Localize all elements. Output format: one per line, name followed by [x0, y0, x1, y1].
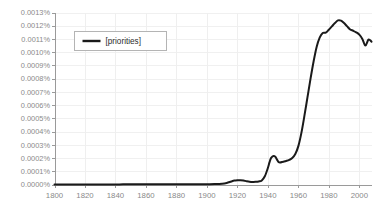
x-axis-tick-label: 1820 — [76, 191, 94, 200]
y-axis-tick-labels: 0.0013%0.0012%0.0011%0.0010%0.0009%0.000… — [21, 8, 51, 189]
x-axis-tick-label: 1840 — [107, 191, 125, 200]
chart-legend[interactable]: [priorities] — [75, 32, 167, 51]
y-axis-tickmarks — [52, 14, 55, 186]
y-axis-tick-label: 0.0010% — [21, 48, 51, 57]
y-axis-tick-label: 0.0006% — [21, 101, 51, 110]
x-axis-tick-label: 1860 — [137, 191, 155, 200]
y-axis-tick-label: 0.0001% — [21, 167, 51, 176]
legend-entry-label[interactable]: [priorities] — [106, 37, 142, 46]
y-axis-tick-label: 0.0004% — [21, 127, 51, 136]
x-axis-tick-labels: 1800182018401860188019001920194019601980… — [46, 191, 369, 200]
chart-canvas: 0.0013%0.0012%0.0011%0.0010%0.0009%0.000… — [0, 0, 379, 210]
y-axis-tick-label: 0.0008% — [21, 74, 51, 83]
x-axis-tick-label: 1980 — [320, 191, 338, 200]
y-axis-tick-label: 0.0003% — [21, 141, 51, 150]
y-axis-tick-label: 0.0012% — [21, 21, 51, 30]
y-axis-tick-label: 0.0009% — [21, 61, 51, 70]
y-axis-tick-label: 0.0011% — [21, 35, 50, 44]
y-axis-tick-label: 0.0002% — [21, 154, 51, 163]
ngram-chart: 0.0013%0.0012%0.0011%0.0010%0.0009%0.000… — [0, 0, 379, 210]
x-axis-tick-label: 1800 — [46, 191, 64, 200]
x-axis-tick-label: 1960 — [290, 191, 308, 200]
y-axis-tick-label: 0.0000% — [21, 180, 51, 189]
y-axis-tick-label: 0.0013% — [21, 8, 51, 17]
y-axis-tick-label: 0.0005% — [21, 114, 51, 123]
x-axis-tick-label: 1880 — [168, 191, 186, 200]
x-axis-tick-label: 1900 — [198, 191, 216, 200]
x-axis-tick-label: 1920 — [229, 191, 247, 200]
y-axis-tick-label: 0.0007% — [21, 88, 51, 97]
x-axis-tick-label: 1940 — [259, 191, 277, 200]
x-axis-tick-label: 2000 — [351, 191, 369, 200]
